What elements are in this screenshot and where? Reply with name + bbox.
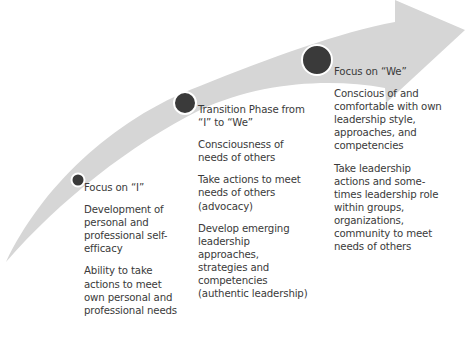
stage-3-point: Conscious of and comfortable with own le… — [334, 87, 444, 152]
stage-3-title: Focus on “We” — [334, 65, 444, 78]
stage-2-marker — [174, 92, 196, 114]
stage-1-point: Development of personal and professional… — [84, 203, 184, 255]
stage-2-title: Transition Phase from “I” to “We” — [198, 103, 308, 129]
stage-3-text: Focus on “We” Conscious of and comfortab… — [334, 65, 444, 262]
stage-2-text: Transition Phase from “I” to “We” Consci… — [198, 103, 308, 309]
stage-3-point: Take leadership actions and some-times l… — [334, 162, 444, 254]
stage-2-point: Develop emerging leadership approaches, … — [198, 222, 308, 301]
stage-2-point: Consciousness of needs of others — [198, 138, 308, 164]
stage-1-title: Focus on “I” — [84, 181, 184, 194]
stage-1-marker — [72, 174, 85, 187]
stage-1-text: Focus on “I” Development of personal and… — [84, 181, 184, 326]
stage-1-point: Ability to take actions to meet own pers… — [84, 264, 184, 316]
stage-3-marker — [302, 45, 332, 75]
stage-2-point: Take actions to meet needs of others (ad… — [198, 173, 308, 212]
